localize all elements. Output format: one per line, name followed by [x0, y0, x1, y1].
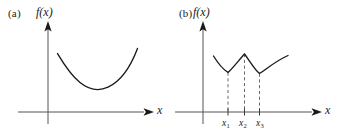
- figure-panel-a: (a) f(x) x: [0, 0, 171, 137]
- figure-container: (a) f(x) x (b) f(x) x x1 x2 x3: [0, 0, 342, 137]
- figure-panel-b: (b) f(x) x x1 x2 x3: [171, 0, 342, 137]
- panel-b-plot: [171, 0, 342, 137]
- panel-b-x-axis-arrowhead: [312, 108, 323, 116]
- panel-a-plot: [0, 0, 171, 137]
- panel-a-convex-curve: [58, 49, 138, 90]
- panel-a-x-axis-arrowhead: [144, 108, 155, 116]
- panel-b-piecewise-curve: [214, 54, 289, 74]
